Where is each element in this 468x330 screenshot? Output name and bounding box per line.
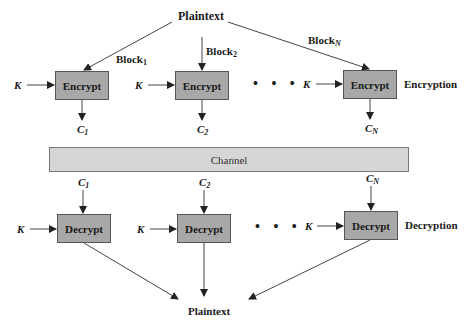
decrypt-box-1: Decrypt	[57, 214, 111, 243]
channel-bar: Channel	[49, 147, 409, 172]
key-label-enc-1: K	[14, 79, 21, 91]
decryption-section-label: Decryption	[405, 219, 458, 231]
block-2-label: Block2	[206, 45, 237, 59]
encryption-section-label: Encryption	[404, 78, 457, 90]
ciphertext-2-dec: C2	[199, 176, 210, 190]
decrypt-box-2: Decrypt	[177, 214, 231, 243]
encrypt-box-1: Encrypt	[55, 71, 109, 100]
ellipsis-enc: • • •	[253, 76, 300, 92]
ciphertext-1-enc: C1	[77, 123, 88, 137]
key-label-dec-2: K	[137, 223, 144, 235]
plaintext-output-label: Plaintext	[188, 305, 230, 317]
encrypt-box-n: Encrypt	[343, 70, 397, 99]
decrypt-box-n: Decrypt	[344, 211, 398, 240]
ciphertext-n-dec: CN	[366, 172, 379, 186]
key-label-dec-n: K	[305, 220, 312, 232]
ellipsis-dec: • • •	[255, 219, 302, 235]
encrypt-box-2: Encrypt	[175, 71, 229, 100]
block-n-label: BlockN	[308, 34, 341, 48]
block-1-label: Block1	[116, 53, 147, 67]
ciphertext-n-enc: CN	[365, 122, 378, 136]
key-label-enc-2: K	[135, 79, 142, 91]
key-label-dec-1: K	[17, 223, 24, 235]
key-label-enc-n: K	[303, 78, 310, 90]
ciphertext-1-dec: C1	[78, 176, 89, 190]
ciphertext-2-enc: C2	[197, 123, 208, 137]
plaintext-source-label: Plaintext	[178, 9, 224, 24]
